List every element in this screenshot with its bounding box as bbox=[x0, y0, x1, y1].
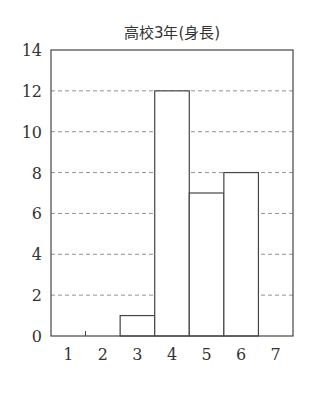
x-tick-label-7: 7 bbox=[271, 345, 281, 364]
y-axis-ticks: 02468101214 bbox=[22, 41, 42, 346]
chart-title: 高校3年(身長) bbox=[124, 24, 220, 42]
bar-4 bbox=[155, 91, 190, 336]
x-axis-ticks: 1234567 bbox=[63, 345, 281, 364]
x-tick-label-2: 2 bbox=[98, 345, 108, 364]
y-tick-label-8: 8 bbox=[32, 164, 42, 183]
histogram-chart: 高校3年(身長) 02468101214 1234567 bbox=[0, 0, 315, 396]
x-tick-label-6: 6 bbox=[236, 345, 246, 364]
y-tick-label-6: 6 bbox=[32, 204, 42, 223]
bars bbox=[120, 91, 258, 336]
x-tick-label-4: 4 bbox=[167, 345, 177, 364]
x-tick-label-5: 5 bbox=[201, 345, 211, 364]
y-tick-label-2: 2 bbox=[32, 286, 42, 305]
y-tick-label-14: 14 bbox=[22, 41, 42, 60]
y-tick-label-12: 12 bbox=[22, 82, 42, 101]
y-tick-label-10: 10 bbox=[22, 123, 42, 142]
x-tick-label-1: 1 bbox=[63, 345, 73, 364]
bar-5 bbox=[189, 193, 224, 336]
x-tick-label-3: 3 bbox=[132, 345, 142, 364]
bar-6 bbox=[224, 173, 259, 336]
bar-3 bbox=[120, 316, 155, 336]
y-tick-label-0: 0 bbox=[32, 327, 42, 346]
y-tick-label-4: 4 bbox=[32, 245, 42, 264]
